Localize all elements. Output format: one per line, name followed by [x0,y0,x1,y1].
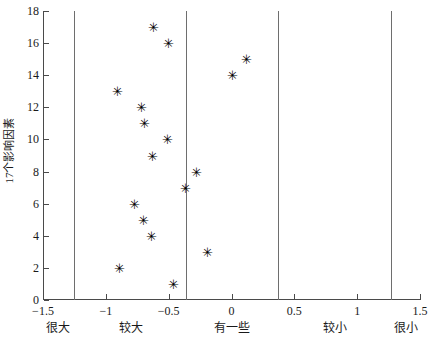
data-point-12: ✳ [136,101,147,114]
y-tick-label-12: 12 [1,101,39,113]
x-tick-0 [232,294,233,299]
y-tick-4 [44,236,49,237]
y-tick-label-16: 16 [1,37,39,49]
y-tick-10 [44,139,49,140]
category-label-1: 很大 [46,322,70,334]
y-tick-16 [44,43,49,44]
plot-area: ✳✳✳✳✳✳✳✳✳✳✳✳✳✳✳✳✳ [43,11,420,300]
category-label-3: 有一些 [214,322,250,334]
x-tick-0.5 [294,294,295,299]
x-tick-label-1: 1 [354,305,360,317]
data-point-4: ✳ [146,229,157,242]
data-point-14: ✳ [227,69,238,82]
scatter-chart-figure: 17个影响因素 ✳✳✳✳✳✳✳✳✳✳✳✳✳✳✳✳✳ 02468101214161… [0,0,438,351]
y-tick-label-8: 8 [1,166,39,178]
y-tick-12 [44,107,49,108]
x-tick-1 [357,294,358,299]
data-point-15: ✳ [241,53,252,66]
data-point-8: ✳ [191,165,202,178]
y-tick-label-2: 2 [1,262,39,274]
data-point-11: ✳ [139,117,150,130]
data-point-10: ✳ [162,133,173,146]
x-tick-label--1.5: −1.5 [32,305,54,317]
x-tick-label-0.5: 0.5 [287,305,302,317]
data-point-3: ✳ [202,245,213,258]
y-tick-label-14: 14 [1,69,39,81]
category-divider-4 [391,11,392,300]
x-tick-label--0.5: −0.5 [158,305,180,317]
y-tick-label-4: 4 [1,230,39,242]
y-tick-14 [44,75,49,76]
y-tick-label-18: 18 [1,5,39,17]
x-tick-label--1: −1 [99,305,112,317]
y-tick-6 [44,204,49,205]
category-divider-1 [74,11,75,300]
category-divider-2 [186,11,187,300]
data-point-13: ✳ [112,85,123,98]
x-tick-label-1.5: 1.5 [413,305,428,317]
data-point-5: ✳ [138,213,149,226]
data-point-17: ✳ [148,21,159,34]
y-tick-0 [44,300,49,301]
y-tick-18 [44,11,49,12]
y-axis-line [43,11,44,300]
x-axis-line [43,299,421,300]
data-point-9: ✳ [147,149,158,162]
x-tick-label-0: 0 [229,305,235,317]
y-tick-label-10: 10 [1,133,39,145]
data-point-1: ✳ [168,277,179,290]
data-point-6: ✳ [129,197,140,210]
x-tick--1.5 [43,294,44,299]
data-point-7: ✳ [180,181,191,194]
x-tick--1 [106,294,107,299]
x-tick--0.5 [169,294,170,299]
y-tick-2 [44,268,49,269]
y-tick-8 [44,172,49,173]
category-label-2: 较大 [119,322,143,334]
x-tick-1.5 [420,294,421,299]
category-divider-3 [278,11,279,300]
category-label-4: 较小 [323,322,347,334]
data-point-2: ✳ [114,261,125,274]
data-point-16: ✳ [163,37,174,50]
y-tick-label-6: 6 [1,198,39,210]
category-label-5: 很小 [394,322,418,334]
